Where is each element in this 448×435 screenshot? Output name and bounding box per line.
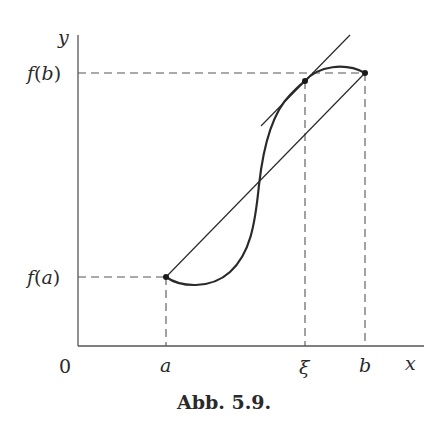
point-a (163, 274, 169, 280)
fb-label: f(b) (25, 62, 61, 84)
fa-label: f(a) (25, 266, 60, 288)
origin-label: 0 (59, 355, 71, 377)
y-axis-label: y (57, 26, 69, 48)
function-curve (166, 67, 365, 285)
mean-value-theorem-figure: y x 0 f(b) f(a) a ξ b Abb. 5.9. (0, 0, 448, 435)
x-axis-label: x (405, 352, 416, 374)
b-label: b (359, 354, 371, 376)
point-xi (302, 78, 308, 84)
a-label: a (160, 354, 171, 376)
point-b (362, 70, 368, 76)
secant-chord-line (166, 73, 365, 277)
figure-canvas: y x 0 f(b) f(a) a ξ b (0, 0, 448, 435)
figure-caption: Abb. 5.9. (0, 391, 448, 413)
xi-label: ξ (299, 356, 311, 378)
